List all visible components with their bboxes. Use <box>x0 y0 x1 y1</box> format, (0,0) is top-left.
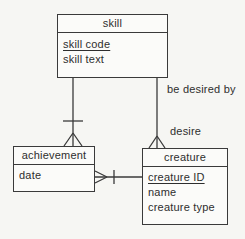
attribute-skill-code: skill code <box>63 37 165 52</box>
entity-creature: creature creature ID name creature type <box>142 148 228 225</box>
attribute-skill-text: skill text <box>63 52 165 67</box>
entity-creature-attributes: creature ID name creature type <box>143 167 227 215</box>
attribute-date: date <box>19 168 92 183</box>
attribute-creature-id: creature ID <box>148 170 225 185</box>
entity-achievement-title: achievement <box>14 147 94 165</box>
entity-skill-title: skill <box>58 15 167 33</box>
er-diagram: skill skill code skill text achievement … <box>0 0 245 239</box>
attribute-creature-type: creature type <box>148 200 225 215</box>
relationship-label-be-desired-by: be desired by <box>167 83 236 95</box>
entity-skill-attributes: skill code skill text <box>58 33 167 67</box>
attribute-name: name <box>148 185 225 200</box>
entity-creature-title: creature <box>143 149 227 167</box>
entity-achievement: achievement date <box>13 146 95 192</box>
entity-achievement-attributes: date <box>14 165 94 183</box>
entity-skill: skill skill code skill text <box>57 14 168 78</box>
relationship-label-desire: desire <box>170 125 201 137</box>
